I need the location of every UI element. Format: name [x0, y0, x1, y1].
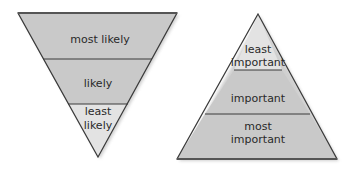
- label-important: important: [231, 92, 286, 105]
- label-least: least: [85, 105, 112, 118]
- label-important-1: important: [231, 56, 286, 69]
- label-most-likely: most likely: [70, 33, 130, 46]
- pyramid: least important important most important: [177, 14, 339, 161]
- label-likely: likely: [84, 77, 113, 90]
- diagram-canvas: most likely likely least likely least im…: [0, 0, 360, 172]
- label-likely-2: likely: [84, 119, 113, 132]
- label-important-2: important: [231, 133, 286, 146]
- label-most: most: [244, 120, 272, 133]
- inverted-triangle: most likely likely least likely: [18, 13, 179, 159]
- label-least: least: [245, 43, 272, 56]
